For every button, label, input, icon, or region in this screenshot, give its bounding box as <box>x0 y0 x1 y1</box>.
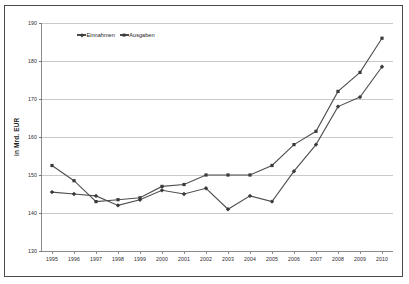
legend-label: Ausgaben <box>129 32 154 38</box>
data-point-einnahmen-1997 <box>94 194 98 198</box>
legend-item-ausgaben: Ausgaben <box>120 32 155 38</box>
x-tick-mark <box>338 251 339 254</box>
data-point-ausgaben-2009 <box>358 71 361 74</box>
data-point-ausgaben-2005 <box>270 164 273 167</box>
data-point-ausgaben-2008 <box>336 90 339 93</box>
x-tick-mark <box>118 251 119 254</box>
x-tick-label: 2007 <box>310 256 322 262</box>
legend-item-einnahmen: Einnahmen <box>77 32 119 38</box>
data-point-einnahmen-2008 <box>336 104 340 108</box>
data-point-ausgaben-2003 <box>226 173 229 176</box>
y-tick-label: 130 <box>28 248 37 254</box>
data-point-ausgaben-1995 <box>50 164 53 167</box>
y-tick-label: 170 <box>28 96 37 102</box>
plot-outer: in Mrd. EUR 190180170160150140130 199519… <box>5 6 402 276</box>
x-tick-mark <box>294 251 295 254</box>
x-tick-label: 2004 <box>244 256 256 262</box>
x-tick-label: 2006 <box>288 256 300 262</box>
x-tick-mark <box>316 251 317 254</box>
x-tick-label: 2005 <box>266 256 278 262</box>
data-point-einnahmen-1996 <box>72 192 76 196</box>
data-point-ausgaben-2006 <box>292 143 295 146</box>
x-tick-mark <box>184 251 185 254</box>
x-tick-mark <box>360 251 361 254</box>
x-tick-label: 1998 <box>112 256 124 262</box>
legend-marker-square-icon <box>120 34 129 35</box>
x-tick-label: 2008 <box>332 256 344 262</box>
x-tick-label: 2010 <box>376 256 388 262</box>
y-tick-label: 140 <box>28 210 37 216</box>
y-tick-label: 150 <box>28 172 37 178</box>
data-point-einnahmen-1995 <box>50 190 54 194</box>
data-point-ausgaben-2007 <box>314 130 317 133</box>
legend-marker-diamond-icon <box>77 34 86 35</box>
x-tick-mark <box>250 251 251 254</box>
x-tick-label: 2003 <box>222 256 234 262</box>
data-point-ausgaben-2000 <box>160 185 163 188</box>
chart-frame: in Mrd. EUR 190180170160150140130 199519… <box>4 5 403 277</box>
x-tick-mark <box>272 251 273 254</box>
x-tick-mark <box>382 251 383 254</box>
legend-label: Einnahmen <box>87 32 115 38</box>
data-point-einnahmen-2001 <box>182 192 186 196</box>
x-tick-label: 1996 <box>68 256 80 262</box>
x-tick-mark <box>206 251 207 254</box>
x-tick-mark <box>96 251 97 254</box>
data-point-ausgaben-1996 <box>72 179 75 182</box>
x-tick-label: 2001 <box>178 256 190 262</box>
legend: Einnahmen Ausgaben <box>77 32 155 38</box>
x-tick-mark <box>140 251 141 254</box>
data-point-ausgaben-2004 <box>248 173 251 176</box>
series-layer <box>41 23 393 251</box>
series-line-ausgaben <box>52 38 382 201</box>
data-point-einnahmen-2000 <box>160 188 164 192</box>
data-point-einnahmen-1998 <box>116 203 120 207</box>
data-point-ausgaben-2001 <box>182 183 185 186</box>
data-point-ausgaben-1997 <box>94 200 97 203</box>
y-tick-label: 190 <box>28 20 37 26</box>
y-tick-mark <box>39 251 42 252</box>
x-axis-line <box>41 251 393 252</box>
plot-area: 190180170160150140130 199519961997199819… <box>41 23 393 251</box>
x-tick-mark <box>228 251 229 254</box>
y-tick-label: 160 <box>28 134 37 140</box>
x-tick-mark <box>162 251 163 254</box>
x-tick-label: 1995 <box>46 256 58 262</box>
data-point-ausgaben-2010 <box>380 37 383 40</box>
x-tick-label: 1999 <box>134 256 146 262</box>
series-line-einnahmen <box>52 67 382 210</box>
y-tick-label: 180 <box>28 58 37 64</box>
data-point-ausgaben-1999 <box>138 196 141 199</box>
x-tick-label: 2000 <box>156 256 168 262</box>
x-tick-mark <box>52 251 53 254</box>
data-point-ausgaben-2002 <box>204 173 207 176</box>
x-tick-label: 2009 <box>354 256 366 262</box>
data-point-ausgaben-1998 <box>116 198 119 201</box>
x-tick-label: 1997 <box>90 256 102 262</box>
x-tick-mark <box>74 251 75 254</box>
x-tick-label: 2002 <box>200 256 212 262</box>
y-axis-title: in Mrd. EUR <box>13 118 20 156</box>
